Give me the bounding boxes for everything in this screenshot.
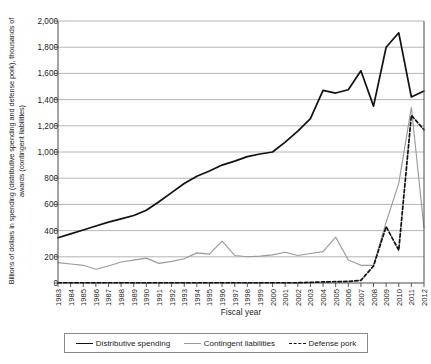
x-tick-label: 2009 <box>382 289 391 306</box>
x-tick-label: 1986 <box>92 289 101 306</box>
chart-figure: Billions of dollars in spending (distrib… <box>0 0 431 364</box>
chart-legend: Distributive spending Contingent liabili… <box>64 333 368 353</box>
x-tick-label: 1993 <box>180 289 189 306</box>
x-tick-label: 2006 <box>344 289 353 306</box>
legend-swatch-solid-gray-icon <box>184 343 201 344</box>
x-tick-label: 2011 <box>407 289 416 305</box>
data-series-group <box>58 33 424 283</box>
legend-item-distributive-spending: Distributive spending <box>76 339 170 348</box>
series-line-contingent-liabilities <box>58 107 424 269</box>
x-tick-label: 1984 <box>67 289 76 306</box>
x-tick-label: 1994 <box>193 289 202 306</box>
legend-label-contingent-liabilities: Contingent liabilities <box>204 339 275 348</box>
gridlines <box>58 21 424 283</box>
x-tick-label: 1996 <box>218 289 227 306</box>
x-tick-label: 2000 <box>269 289 278 306</box>
x-tick-label: 1992 <box>168 289 177 306</box>
x-tick-label: 1989 <box>130 289 139 306</box>
x-tick-label: 2004 <box>319 289 328 306</box>
x-tick-label: 1988 <box>117 289 126 306</box>
x-tick-label: 1991 <box>155 289 164 306</box>
x-tick-label: 2007 <box>357 289 366 306</box>
legend-item-contingent-liabilities: Contingent liabilities <box>184 339 275 348</box>
legend-label-defense-pork: Defense pork <box>309 339 357 348</box>
x-axis-ticks: 1983198419851986198719881989199019911992… <box>0 286 431 310</box>
x-tick-label: 1985 <box>79 289 88 306</box>
x-tick-label: 1998 <box>243 289 252 306</box>
x-tick-label: 1999 <box>256 289 265 306</box>
x-tick-label: 2012 <box>420 289 429 306</box>
x-tick-label: 1997 <box>231 289 240 306</box>
x-tick-label: 1995 <box>205 289 214 306</box>
x-tick-label: 2005 <box>332 289 341 306</box>
x-tick-label: 2002 <box>294 289 303 306</box>
legend-item-defense-pork: Defense pork <box>289 339 357 348</box>
x-tick-label: 2003 <box>306 289 315 306</box>
axis-tick-marks <box>54 21 424 287</box>
legend-swatch-dashed-icon <box>289 343 306 344</box>
series-line-distributive-spending <box>58 33 424 238</box>
x-tick-label: 2001 <box>281 289 290 306</box>
x-tick-label: 1983 <box>54 289 63 306</box>
x-tick-label: 1987 <box>104 289 113 306</box>
x-tick-label: 2008 <box>370 289 379 306</box>
series-line-defense-pork <box>58 115 424 282</box>
x-tick-label: 1990 <box>142 289 151 306</box>
x-tick-label: 2010 <box>395 289 404 306</box>
legend-label-distributive-spending: Distributive spending <box>96 339 170 348</box>
x-axis-title: Fiscal year <box>56 308 426 317</box>
legend-swatch-solid-dark-icon <box>76 343 93 344</box>
